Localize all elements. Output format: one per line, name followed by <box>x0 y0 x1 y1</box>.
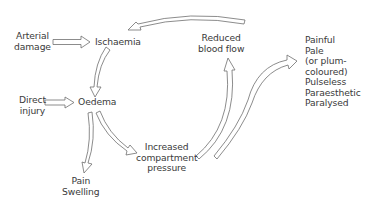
arrow-arterial-to-ischaemia <box>53 36 90 48</box>
node-arterial-damage: Arterial damage <box>14 31 51 52</box>
node-reduced-blood-flow: Reduced blood flow <box>198 33 244 54</box>
arrow-direct-injury-to-oedema <box>45 97 74 108</box>
node-pain-line: Pain <box>62 176 100 187</box>
arrow-ischaemia-to-oedema <box>90 47 110 97</box>
node-reduced-flow-line1: Reduced <box>198 33 244 44</box>
node-compartment-line1: Increased <box>136 142 197 153</box>
node-increased-compartment-pressure: Increased compartment pressure <box>136 142 197 174</box>
node-oedema: Oedema <box>78 97 116 108</box>
node-direct-injury-line2: injury <box>19 106 46 117</box>
node-arterial-damage-line2: damage <box>14 42 51 53</box>
node-ischaemia: Ischaemia <box>95 37 141 48</box>
symptom-pulseless: Pulseless <box>305 77 361 88</box>
node-direct-injury-line1: Direct <box>19 95 46 106</box>
arrow-oedema-to-pain <box>82 112 93 173</box>
node-symptoms-list: Painful Pale (or plum- coloured) Pulsele… <box>305 35 361 109</box>
node-direct-injury: Direct injury <box>19 95 46 116</box>
arrow-oedema-to-compartment <box>96 111 137 155</box>
node-arterial-damage-line1: Arterial <box>14 31 51 42</box>
node-pain-swelling: Pain Swelling <box>62 176 100 197</box>
node-reduced-flow-line2: blood flow <box>198 44 244 55</box>
symptom-plum-line1: (or plum- <box>305 56 361 67</box>
node-swelling-line: Swelling <box>62 187 100 198</box>
arrow-reduced-flow-to-ischaemia <box>128 16 245 30</box>
symptom-paralysed: Paralysed <box>305 98 361 109</box>
symptom-painful: Painful <box>305 35 361 46</box>
node-compartment-line3: pressure <box>136 163 197 174</box>
